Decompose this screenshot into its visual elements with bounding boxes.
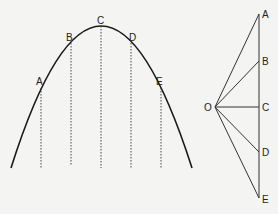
pole-label-o: O — [204, 102, 212, 113]
polygon-label-c: C — [262, 102, 269, 113]
parabola-curve — [11, 26, 192, 168]
parabola-label-d: D — [129, 32, 136, 43]
parabola-label-a: A — [36, 76, 43, 87]
parabola-label-b: B — [66, 32, 73, 43]
parabola-label-c: C — [97, 15, 104, 26]
funicular-diagram: A B C D E O A B C D E — [0, 0, 278, 214]
polygon-label-d: D — [262, 147, 269, 158]
force-rays — [215, 14, 259, 198]
polygon-label-a: A — [262, 9, 269, 20]
polygon-label-e: E — [262, 194, 269, 205]
dotted-verticals — [41, 26, 161, 168]
parabola-label-e: E — [156, 76, 163, 87]
polygon-label-b: B — [262, 56, 269, 67]
